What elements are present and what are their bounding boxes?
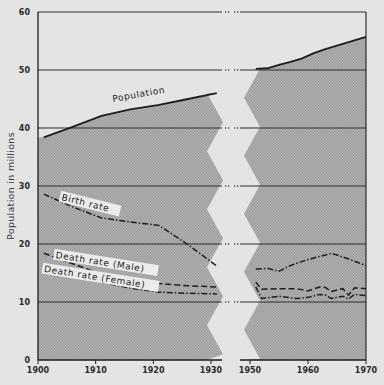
series-label: Population xyxy=(109,83,172,105)
y-tick-label: 40 xyxy=(19,124,31,133)
population-fill-left xyxy=(38,93,223,360)
population-chart: 0102030405060190019101920193019501960197… xyxy=(0,0,384,385)
x-tick-label: 1920 xyxy=(142,366,165,375)
x-tick-label: 1950 xyxy=(239,366,262,375)
svg-text:Population: Population xyxy=(112,85,166,104)
population-fill-right xyxy=(244,37,366,360)
x-tick-label: 1970 xyxy=(355,366,378,375)
y-tick-label: 50 xyxy=(19,66,31,75)
y-tick-label: 0 xyxy=(24,356,30,365)
y-axis-title: Population in millions xyxy=(5,132,16,240)
y-tick-label: 30 xyxy=(19,182,31,191)
x-tick-label: 1910 xyxy=(85,366,108,375)
y-tick-label: 20 xyxy=(19,240,31,249)
y-tick-label: 10 xyxy=(19,298,31,307)
y-tick-label: 60 xyxy=(19,8,31,17)
x-tick-label: 1900 xyxy=(27,366,50,375)
x-tick-label: 1930 xyxy=(200,366,223,375)
x-tick-label: 1960 xyxy=(297,366,320,375)
